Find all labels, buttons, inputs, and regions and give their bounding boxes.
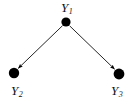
node-label-y3-base: Y (111, 83, 118, 98)
node-y1 (61, 17, 70, 26)
node-y3 (114, 69, 125, 80)
node-label-y1: Y1 (61, 1, 72, 14)
node-label-y2: Y2 (11, 84, 22, 97)
node-label-y3-subscript: 3 (119, 90, 123, 99)
edge-y1-to-y3 (70, 26, 115, 69)
node-label-y2-subscript: 2 (19, 90, 23, 99)
node-label-y1-base: Y (61, 0, 68, 15)
node-y2 (9, 68, 19, 78)
node-label-y3: Y3 (111, 84, 122, 97)
edge-y1-to-y2 (18, 26, 62, 69)
dag-figure: Y1 Y2 Y3 (0, 0, 133, 104)
node-label-y1-subscript: 1 (69, 7, 73, 16)
node-label-y2-base: Y (11, 83, 18, 98)
